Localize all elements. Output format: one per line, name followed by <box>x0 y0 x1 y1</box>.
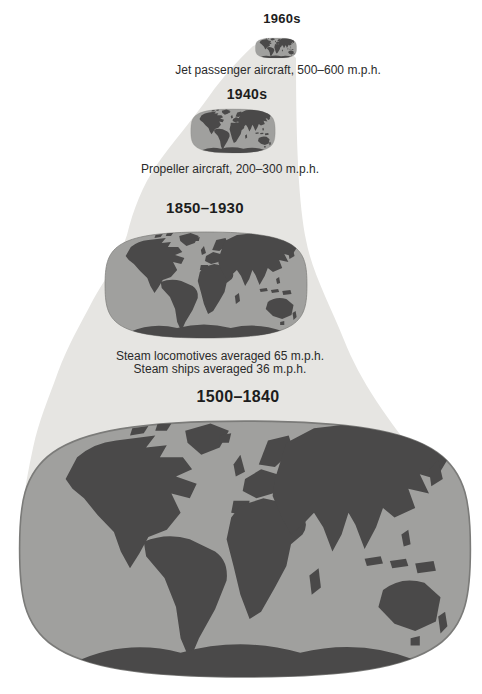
caption-propeller-aircraft: Propeller aircraft, 200–300 m.p.h. <box>141 162 319 176</box>
world-map-1850-1930 <box>105 232 307 343</box>
period-label-1500-1840: 1500–1840 <box>197 388 280 406</box>
caption-steam-locomotives: Steam locomotives averaged 65 m.p.h. <box>116 349 324 363</box>
world-map-1940s <box>191 109 275 155</box>
caption-steam-ships: Steam ships averaged 36 m.p.h. <box>134 362 307 376</box>
period-label-1940s: 1940s <box>227 86 267 102</box>
world-map-1960s <box>255 38 296 59</box>
world-map-1500-1840 <box>20 421 471 689</box>
period-label-1960s: 1960s <box>263 11 301 26</box>
caption-jet-aircraft: Jet passenger aircraft, 500–600 m.p.h. <box>175 63 380 77</box>
diagram-canvas <box>0 0 482 694</box>
period-label-1850-1930: 1850–1930 <box>166 199 244 216</box>
shrinking-world-diagram: 1960s Jet passenger aircraft, 500–600 m.… <box>0 0 482 694</box>
